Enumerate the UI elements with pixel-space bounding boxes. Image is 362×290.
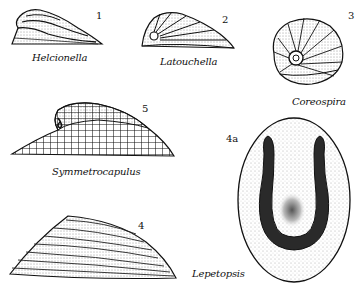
coreospira-illustration	[264, 14, 348, 86]
symmetrocapulus-shell-icon	[8, 100, 178, 158]
figure-number-4a: 4a	[226, 133, 238, 144]
lepetopsis-lateral-shell-icon	[6, 212, 178, 282]
lepetopsis-interior-shell-icon	[234, 114, 354, 286]
figure-number-4: 4	[138, 220, 144, 231]
label-helcionella: Helcionella	[32, 52, 87, 63]
label-latouchella: Latouchella	[160, 56, 217, 67]
label-coreospira: Coreospira	[292, 96, 346, 107]
symmetrocapulus-illustration	[8, 100, 178, 158]
figure-number-3: 3	[348, 10, 354, 21]
label-lepetopsis: Lepetopsis	[192, 268, 245, 279]
figure-number-5: 5	[142, 103, 148, 114]
coreospira-shell-icon	[264, 14, 348, 86]
figure-number-2: 2	[222, 14, 228, 25]
helcionella-shell-icon	[8, 4, 108, 48]
label-symmetrocapulus: Symmetrocapulus	[52, 166, 140, 177]
figure-number-1: 1	[96, 10, 102, 21]
lepetopsis-interior-illustration	[234, 114, 354, 286]
helcionella-illustration	[8, 4, 108, 48]
lepetopsis-lateral-illustration	[6, 212, 178, 282]
